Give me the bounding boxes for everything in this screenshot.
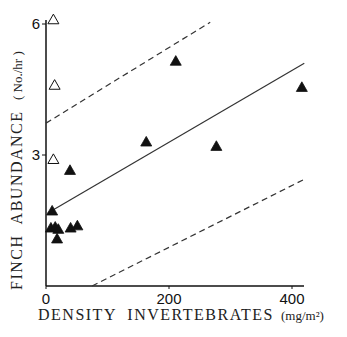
filled-triangle-point [296, 82, 307, 92]
filled-triangle-point [47, 205, 58, 215]
regression-line [48, 63, 304, 213]
ticks: 020040036 [32, 15, 305, 307]
x-tick-label: 200 [156, 290, 181, 307]
x-tick-label: 400 [279, 290, 304, 307]
x-axis-label: DENSITY INVERTEBRATES [38, 306, 274, 323]
open-triangle-point [49, 80, 60, 90]
x-axis-unit: (mg/m²) [281, 308, 324, 323]
filled-triangle-point [141, 136, 152, 146]
filled-triangle-point [211, 141, 222, 151]
open-triangle-point [48, 154, 59, 164]
filled-triangle-point [170, 56, 181, 66]
y-axis-unit: ( No./hr ) [10, 51, 25, 100]
filled-triangle-point [52, 233, 63, 243]
x-tick-label: 0 [42, 290, 50, 307]
y-tick-label: 6 [32, 15, 40, 32]
filled-triangle-point [64, 165, 75, 175]
data-points [45, 14, 307, 243]
upper-confidence-line [46, 22, 210, 123]
lower-confidence-line [92, 180, 303, 286]
scatter-chart: 020040036 DENSITY INVERTEBRATES (mg/m²) … [0, 0, 347, 337]
filled-triangle-point [72, 220, 83, 230]
y-tick-label: 3 [32, 146, 40, 163]
open-triangle-point [48, 14, 59, 24]
y-axis-label: FINCH ABUNDANCE [8, 110, 25, 290]
